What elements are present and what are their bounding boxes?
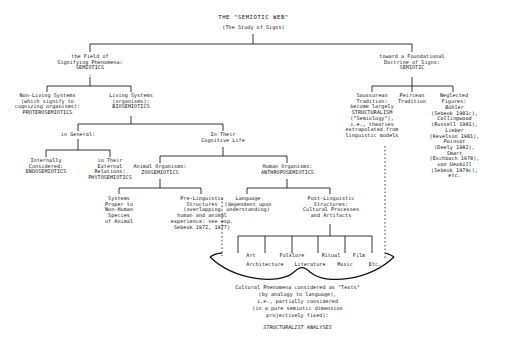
cultural-item: Etc.: [348, 262, 402, 268]
conclusion-line-1: Cultural Phenomena considered as "Texts": [190, 285, 405, 291]
semiotics-dot: .: [88, 72, 93, 78]
node-non-living-systems: Non-Living Systems (which signify to cog…: [1, 93, 94, 116]
node-neglected-figures-heading: Neglected Figures:: [423, 93, 485, 104]
page-title: THE "SEMIOTIC WEB": [186, 14, 321, 20]
conclusion-line-2: (by analogy to language),: [190, 292, 405, 298]
node-semiotic: toward a Foundational Doctrine of Signs:…: [360, 54, 464, 71]
node-in-their-cognitive-life: In Their Cognitive Life: [187, 132, 259, 143]
neglected-figure-name: etc.: [412, 173, 497, 179]
node-endosemiotics: Internally Considered: ENDOSEMIOTICS: [10, 158, 82, 175]
node-language: Language (dependent upon understanding): [207, 196, 289, 213]
node-anthroposemiotics: Human Organisms: ANTHROPOSEMIOTICS: [235, 164, 340, 175]
node-in-general: in General:: [48, 132, 108, 138]
node-zoosemiotics: Animal Organisms: ZOOSEMIOTICS: [112, 164, 208, 175]
cultural-item: Film: [334, 253, 384, 259]
conclusion-line-5: projectively fixed):: [190, 313, 405, 319]
node-living-systems: Living Systems (organisms): BIOSEMIOTICS: [92, 93, 170, 110]
node-semiotics: the Field of Signifying Phenomena: SEMIO…: [40, 54, 140, 71]
conclusion-line-4: (in a pure semiotic dimension: [190, 306, 405, 312]
neglected-figures-list: Bühler(Sebeok 1981c),Collingwood(Russell…: [412, 105, 497, 179]
node-post-linguistic-structures: Post-Linguistic Structures: Cultural Pro…: [283, 196, 379, 219]
node-systems-proper-non-human: Systems Proper to Non-Human Species of A…: [89, 196, 149, 225]
page-subtitle: (The Study of Signs): [196, 25, 311, 31]
semiotic-web-diagram: THE "SEMIOTIC WEB" (The Study of Signs) …: [0, 0, 509, 344]
conclusion-line-3: i.e., partially considered: [190, 299, 405, 305]
conclusion-emphasis: STRUCTURALIST ANALYSES: [190, 325, 405, 331]
